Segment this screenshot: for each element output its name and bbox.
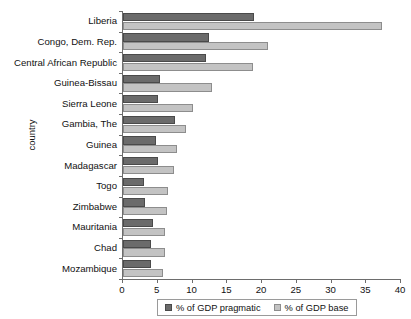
bar-base <box>123 207 167 215</box>
y-axis-tick-label: Togo <box>96 181 117 191</box>
chart-category-row: Togo <box>122 176 400 197</box>
x-axis-tick-label: 25 <box>290 284 301 295</box>
bar-base <box>123 269 163 277</box>
legend-label-pragmatic: % of GDP pragmatic <box>176 303 261 313</box>
y-axis-tick <box>119 197 122 198</box>
chart-category-row: Congo, Dem. Rep. <box>122 32 400 53</box>
y-axis-tick-label: Congo, Dem. Rep. <box>38 37 117 47</box>
x-axis-tick-label: 10 <box>186 284 197 295</box>
y-axis-tick-label: Gambia, The <box>62 120 117 130</box>
chart-category-row: Zimbabwe <box>122 197 400 218</box>
bar-base <box>123 63 253 71</box>
y-axis-tick-label: Sierra Leone <box>62 99 117 109</box>
chart-category-row: Mauritania <box>122 217 400 238</box>
bar-pragmatic <box>123 95 158 103</box>
chart-category-row: Chad <box>122 238 400 259</box>
y-axis-tick <box>119 155 122 156</box>
chart-category-row: Gambia, The <box>122 114 400 135</box>
x-axis-tick-label: 35 <box>360 284 371 295</box>
bar-base <box>123 166 174 174</box>
bar-pragmatic <box>123 178 144 186</box>
y-axis-tick <box>119 135 122 136</box>
y-axis-title: country <box>26 100 37 170</box>
bar-base <box>123 145 177 153</box>
chart-category-row: Sierra Leone <box>122 93 400 114</box>
y-axis-tick <box>119 93 122 94</box>
bar-base <box>123 22 382 30</box>
x-axis-tick <box>261 279 262 283</box>
bar-pragmatic <box>123 13 254 21</box>
bar-base <box>123 228 165 236</box>
y-axis-tick-label: Liberia <box>88 17 117 27</box>
x-axis-tick <box>192 279 193 283</box>
y-axis-tick <box>119 73 122 74</box>
chart-category-row: Madagascar <box>122 155 400 176</box>
y-axis-tick-label: Central African Republic <box>14 58 117 68</box>
x-axis-tick-label: 40 <box>395 284 406 295</box>
x-axis-tick-label: 0 <box>119 284 124 295</box>
chart-category-row: Guinea <box>122 135 400 156</box>
x-axis-tick <box>400 279 401 283</box>
x-axis-tick <box>122 279 123 283</box>
chart-category-row: Guinea-Bissau <box>122 73 400 94</box>
y-axis-tick <box>119 258 122 259</box>
bar-base <box>123 104 193 112</box>
x-axis-tick-label: 30 <box>325 284 336 295</box>
y-axis-tick <box>119 32 122 33</box>
y-axis-tick <box>119 114 122 115</box>
legend-item-pragmatic: % of GDP pragmatic <box>165 303 261 313</box>
y-axis-tick <box>119 217 122 218</box>
bar-base <box>123 248 165 256</box>
chart-legend: % of GDP pragmatic % of GDP base <box>157 299 357 316</box>
x-axis-tick <box>365 279 366 283</box>
chart-category-row: Liberia <box>122 11 400 32</box>
x-axis-tick <box>296 279 297 283</box>
y-axis-tick-label: Chad <box>94 243 117 253</box>
plot-area: LiberiaCongo, Dem. Rep.Central African R… <box>122 11 400 279</box>
bar-pragmatic <box>123 33 209 41</box>
y-axis-tick-label: Guinea-Bissau <box>54 78 117 88</box>
bar-pragmatic <box>123 198 145 206</box>
legend-swatch-base <box>274 304 281 311</box>
chart-category-row: Central African Republic <box>122 52 400 73</box>
y-axis-tick-label: Mauritania <box>72 223 117 233</box>
chart-category-row: Mozambique <box>122 258 400 279</box>
x-axis-tick <box>226 279 227 283</box>
bar-base <box>123 42 268 50</box>
x-axis-tick-label: 20 <box>256 284 267 295</box>
x-axis-tick-label: 15 <box>221 284 232 295</box>
bar-pragmatic <box>123 116 175 124</box>
bar-base <box>123 83 212 91</box>
bar-pragmatic <box>123 136 156 144</box>
legend-item-base: % of GDP base <box>274 303 349 313</box>
bar-pragmatic <box>123 75 160 83</box>
y-axis-tick-label: Guinea <box>86 140 117 150</box>
legend-swatch-pragmatic <box>165 304 172 311</box>
bar-base <box>123 125 186 133</box>
bar-pragmatic <box>123 219 153 227</box>
x-axis-tick <box>157 279 158 283</box>
legend-label-base: % of GDP base <box>285 303 349 313</box>
x-axis-tick <box>331 279 332 283</box>
y-axis-tick <box>119 176 122 177</box>
bar-base <box>123 187 168 195</box>
bar-chart: country LiberiaCongo, Dem. Rep.Central A… <box>0 0 411 319</box>
y-axis-tick <box>119 238 122 239</box>
bar-pragmatic <box>123 157 158 165</box>
y-axis-tick-label: Madagascar <box>64 161 117 171</box>
x-axis-tick-label: 5 <box>154 284 159 295</box>
y-axis-tick-label: Mozambique <box>62 264 117 274</box>
bar-pragmatic <box>123 240 151 248</box>
bar-pragmatic <box>123 260 151 268</box>
y-axis-tick <box>119 11 122 12</box>
bar-pragmatic <box>123 54 206 62</box>
y-axis-tick <box>119 52 122 53</box>
y-axis-tick-label: Zimbabwe <box>73 202 117 212</box>
